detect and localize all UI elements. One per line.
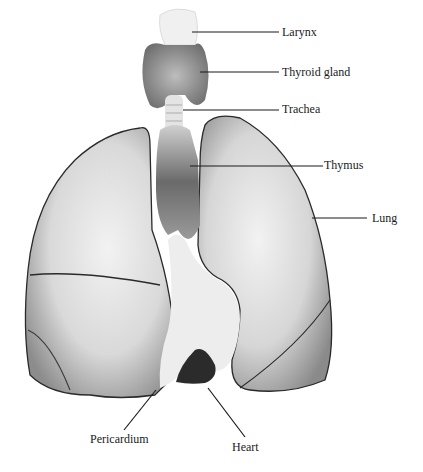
label-thymus: Thymus: [324, 158, 363, 172]
label-heart: Heart: [232, 440, 259, 454]
label-pericardium: Pericardium: [90, 432, 149, 446]
label-trachea: Trachea: [282, 102, 320, 116]
left-lung-shape: [25, 128, 175, 398]
thymus-shape: [156, 125, 200, 239]
label-thyroid-gland: Thyroid gland: [282, 65, 350, 79]
larynx-shape: [160, 9, 198, 45]
label-larynx: Larynx: [282, 25, 317, 39]
anatomy-diagram: [0, 0, 423, 472]
label-lung: Lung: [372, 211, 397, 225]
heart-leader: [208, 388, 245, 437]
